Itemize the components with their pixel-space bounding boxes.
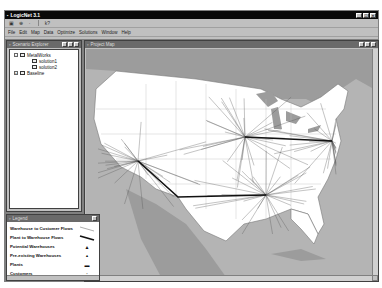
minimize-button[interactable] <box>62 42 67 47</box>
legend-label: Warehouse to Customer Flows <box>10 226 78 231</box>
toolbar-separator <box>38 20 39 26</box>
menu-help[interactable]: Help <box>122 30 131 35</box>
tree-node-label: solution1 <box>39 59 57 64</box>
project-icon <box>20 71 25 75</box>
tree-node-baseline[interactable]: + Baseline <box>12 70 76 76</box>
maximize-button[interactable] <box>68 42 73 47</box>
close-button[interactable] <box>371 42 376 47</box>
usa-network-map <box>86 49 372 275</box>
scenario-explorer-title: Scenario Explorer <box>13 42 61 47</box>
maximize-button[interactable] <box>365 42 370 47</box>
legend-window: ▫ Legend Warehouse to Customer Flows Pla… <box>6 214 100 281</box>
expand-icon[interactable]: + <box>14 71 18 75</box>
title-bar: ▪ LogicNet 3.1 _ □ × <box>5 11 378 19</box>
context-help-icon[interactable]: k? <box>44 20 51 26</box>
close-button[interactable] <box>74 42 79 47</box>
thick-line-icon <box>78 234 96 242</box>
legend-label: Pre-existing Warehouses <box>10 253 78 258</box>
menu-window[interactable]: Window <box>102 30 118 35</box>
scenario-explorer-window: ▫ Scenario Explorer - MetalWorks solutio… <box>6 40 82 212</box>
window-icon: ▫ <box>87 42 89 47</box>
legend-item-plants: Plants ▬ <box>10 260 96 269</box>
pan-icon[interactable]: · <box>26 20 33 26</box>
scroll-corner <box>372 275 378 281</box>
menu-map[interactable]: Map <box>31 30 40 35</box>
tree-node-label: solution2 <box>39 65 57 70</box>
triangle-icon: ▲ <box>78 243 96 251</box>
map-canvas[interactable] <box>86 49 372 275</box>
solution-icon <box>32 65 37 69</box>
legend-title: Legend <box>13 216 91 221</box>
legend-item-warehouse-customer: Warehouse to Customer Flows <box>10 224 96 233</box>
project-map-title: Project Map <box>91 42 358 47</box>
tree-node-label: Baseline <box>27 71 44 76</box>
horizontal-scrollbar[interactable] <box>86 275 372 281</box>
app-icon: ▪ <box>7 13 8 18</box>
vertical-scrollbar[interactable] <box>372 49 378 275</box>
legend-item-preexisting-warehouses: Pre-existing Warehouses ▴ <box>10 251 96 260</box>
menu-bar: File Edit Map Data Optimize Solutions Wi… <box>5 28 378 37</box>
solution-icon <box>32 59 37 63</box>
scenario-tree: - MetalWorks solution1 solution2 + Basel… <box>9 49 79 209</box>
factory-icon: ▬ <box>78 261 96 269</box>
small-triangle-icon: ▴ <box>78 252 96 260</box>
window-icon: ▫ <box>9 42 11 47</box>
legend-label: Plant to Warehouse Flows <box>10 235 78 240</box>
toolbar: ▣ ⊕ · k? <box>5 19 378 28</box>
project-map-window: ▫ Project Map <box>84 40 379 282</box>
legend-titlebar[interactable]: ▫ Legend <box>7 215 99 222</box>
app-title: LogicNet 3.1 <box>10 12 356 18</box>
maximize-button[interactable]: □ <box>363 13 369 18</box>
scenario-explorer-titlebar[interactable]: ▫ Scenario Explorer <box>7 41 81 48</box>
close-button[interactable] <box>92 216 97 221</box>
tree-node-label: MetalWorks <box>27 53 51 58</box>
legend-label: Potential Warehouses <box>10 244 78 249</box>
menu-data[interactable]: Data <box>44 30 54 35</box>
menu-solutions[interactable]: Solutions <box>79 30 98 35</box>
minimize-button[interactable]: _ <box>356 13 362 18</box>
thin-line-icon <box>78 225 96 233</box>
menu-edit[interactable]: Edit <box>19 30 27 35</box>
app-window: ▪ LogicNet 3.1 _ □ × ▣ ⊕ · k? File Edit … <box>4 10 379 282</box>
menu-optimize[interactable]: Optimize <box>57 30 75 35</box>
close-button[interactable]: × <box>370 13 376 18</box>
mdi-workspace: ▫ Scenario Explorer - MetalWorks solutio… <box>5 39 378 281</box>
project-icon <box>20 53 25 57</box>
legend-list: Warehouse to Customer Flows Plant to War… <box>7 222 99 280</box>
open-icon[interactable]: ▣ <box>8 20 15 26</box>
collapse-icon[interactable]: - <box>14 53 18 57</box>
window-icon: ▫ <box>9 216 11 221</box>
minimize-button[interactable] <box>359 42 364 47</box>
zoom-icon[interactable]: ⊕ <box>17 20 24 26</box>
legend-scrollbar[interactable] <box>7 275 99 280</box>
legend-item-potential-warehouses: Potential Warehouses ▲ <box>10 242 96 251</box>
legend-item-plant-warehouse: Plant to Warehouse Flows <box>10 233 96 242</box>
menu-file[interactable]: File <box>8 30 15 35</box>
legend-label: Plants <box>10 262 78 267</box>
project-map-titlebar[interactable]: ▫ Project Map <box>85 41 378 48</box>
